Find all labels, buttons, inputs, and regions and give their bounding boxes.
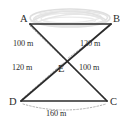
vertex-label-a: A — [20, 14, 28, 25]
vertex-label-e: E — [58, 64, 64, 75]
measure-label-ce: 100 m — [79, 64, 99, 72]
measure-label-de: 120 m — [12, 64, 32, 72]
vertex-label-d: D — [9, 97, 17, 108]
vertex-label-c: C — [110, 97, 117, 108]
vertex-label-b: B — [113, 14, 120, 25]
measure-label-dc: 160 m — [46, 110, 66, 118]
measure-label-ae: 100 m — [13, 40, 33, 48]
geometry-figure: A B C D E 100 m 120 m 120 m 100 m 160 m — [0, 0, 132, 133]
measure-label-be: 120 m — [80, 40, 100, 48]
